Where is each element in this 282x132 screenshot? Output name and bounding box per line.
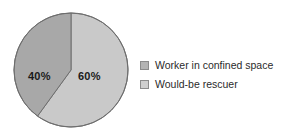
- legend-label-would-be-rescuer: Would-be rescuer: [155, 79, 238, 90]
- legend-label-worker-in-confined-space: Worker in confined space: [155, 60, 273, 71]
- chart-legend: Worker in confined space Would-be rescue…: [140, 56, 280, 94]
- legend-swatch-icon-worker-in-confined-space: [140, 61, 149, 70]
- legend-item-worker-in-confined-space: Worker in confined space: [140, 56, 280, 75]
- legend-item-would-be-rescuer: Would-be rescuer: [140, 75, 280, 94]
- pie-chart-graphic: 60% 40%: [13, 12, 129, 128]
- pie-slice-label-would-be-rescuer: 40%: [28, 70, 51, 82]
- pie-slice-label-worker-in-confined-space: 60%: [78, 70, 101, 82]
- pie-chart-figure: 60% 40% Worker in confined space Would-b…: [0, 0, 282, 132]
- legend-swatch-icon-would-be-rescuer: [140, 80, 149, 89]
